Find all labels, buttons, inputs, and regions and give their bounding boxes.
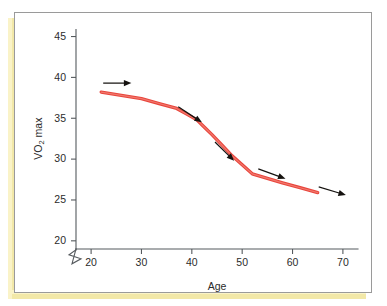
arrow-5-head — [338, 190, 346, 196]
vo2max-line-chart: 202530354045203040506070AgeVO2 max — [14, 12, 372, 293]
data-line-highlight — [101, 92, 318, 193]
x-tick-label: 20 — [85, 256, 97, 268]
y-axis-label: VO2 max — [32, 117, 46, 160]
y-tick-label: 20 — [54, 234, 66, 246]
screenshot-root: 202530354045203040506070AgeVO2 max — [0, 0, 387, 306]
x-tick-label: 50 — [236, 256, 248, 268]
x-tick-label: 60 — [287, 256, 299, 268]
arrow-2-shaft — [178, 107, 196, 119]
data-line-VO2 max decline with age — [101, 92, 318, 193]
arrow-5-shaft — [319, 187, 340, 193]
y-tick-label: 30 — [54, 152, 66, 164]
x-tick-label: 70 — [337, 256, 349, 268]
arrow-1-head — [124, 80, 132, 86]
y-tick-label: 45 — [54, 30, 66, 42]
arrow-4-head — [277, 173, 285, 179]
y-tick-label: 35 — [54, 112, 66, 124]
x-tick-label: 40 — [186, 256, 198, 268]
y-axis-break-icon — [69, 249, 81, 264]
x-tick-label: 30 — [136, 256, 148, 268]
x-axis-label: Age — [208, 280, 227, 292]
card-shadow-left-highlight — [8, 18, 12, 299]
y-tick-label: 25 — [54, 193, 66, 205]
y-tick-label: 40 — [54, 71, 66, 83]
